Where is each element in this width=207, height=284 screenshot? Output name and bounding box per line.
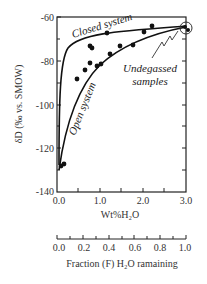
- annotation-undegassed: Undegassed: [123, 62, 177, 74]
- secondary-tick-label: 0.8: [154, 242, 167, 253]
- open-system-curve: [59, 27, 186, 170]
- secondary-tick-label: 0.6: [129, 242, 142, 253]
- y-axis-label: δD (‰ vs. SMOW): [13, 65, 25, 144]
- x-tick-label: 3.0: [180, 195, 193, 206]
- x-tick-label: 2.0: [137, 195, 150, 206]
- y-tick-label: -100: [36, 100, 54, 111]
- secondary-tick-label: 0.4: [103, 242, 116, 253]
- secondary-tick-label: 0.2: [78, 242, 91, 253]
- y-tick-label: -120: [36, 143, 54, 154]
- y-tick-label: -80: [41, 56, 54, 67]
- secondary-tick-label: 0.0: [53, 242, 66, 253]
- annotation-samples: samples: [132, 75, 167, 87]
- y-tick-label: -60: [41, 12, 54, 23]
- chart: -60 -80 -100 -120 -140 0.0 1.0 2.0 3.0 W…: [0, 0, 207, 284]
- secondary-ticks: [57, 235, 186, 239]
- x-axis-label: Wt%H₂O: [101, 209, 139, 220]
- x-tick-label: 1.0: [94, 195, 107, 206]
- y-ticks: [57, 17, 186, 170]
- y-tick-label: -140: [36, 186, 54, 197]
- x-tick-label: 0.0: [53, 195, 66, 206]
- secondary-tick-label: 1.0: [179, 242, 192, 253]
- x-ticks: [78, 188, 164, 192]
- closed-system-label: Closed system: [70, 10, 133, 40]
- secondary-axis-label: Fraction (F) H₂O ramaining: [66, 258, 178, 270]
- closed-system-curve: [59, 26, 186, 165]
